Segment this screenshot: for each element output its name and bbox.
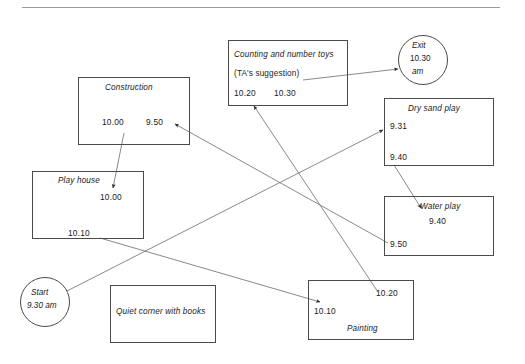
node-painting-label: Painting <box>347 324 378 333</box>
node-start-line-1: Start <box>31 288 48 297</box>
arrow-painting-to-counting <box>254 106 378 292</box>
node-construction-time-950: 9.50 <box>146 117 163 127</box>
node-dry-sand-time-940: 9.40 <box>390 152 407 162</box>
node-exit-line-1: Exit <box>412 41 426 50</box>
node-counting-label: Counting and number toys <box>234 50 334 59</box>
node-counting-time-1030: 10.30 <box>274 88 296 98</box>
node-painting-time-1020: 10.20 <box>376 288 398 298</box>
node-start-line-2: 9.30 am <box>27 301 57 310</box>
node-play-house-time-1010: 10.10 <box>68 228 90 238</box>
node-quiet-corner-label: Quiet corner with books <box>116 307 205 316</box>
node-construction-label: Construction <box>105 83 153 92</box>
node-exit-line-3: am <box>412 67 423 76</box>
node-counting-sublabel: (TA's suggestion) <box>234 69 299 78</box>
arrow-water-play-to-construction <box>175 124 388 243</box>
node-exit-line-2: 10.30 <box>410 54 431 63</box>
node-counting-time-1020: 10.20 <box>234 88 256 98</box>
node-play-house-label: Play house <box>58 176 100 185</box>
diagram-page: Construction 10.00 9.50 Counting and num… <box>0 0 525 364</box>
node-painting-time-1010: 10.10 <box>314 306 336 316</box>
node-water-play-time-940: 9.40 <box>429 216 446 226</box>
node-water-play-label: Water play <box>420 202 460 211</box>
node-play-house-time-1000: 10.00 <box>100 192 122 202</box>
node-construction-time-1000: 10.00 <box>102 117 124 127</box>
node-water-play-time-950: 9.50 <box>390 239 407 249</box>
node-dry-sand-time-931: 9.31 <box>390 121 407 131</box>
node-dry-sand-label: Dry sand play <box>408 104 460 113</box>
